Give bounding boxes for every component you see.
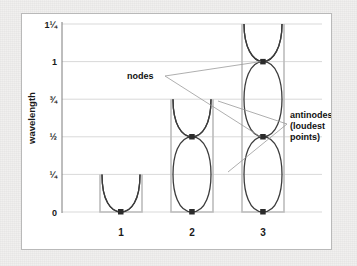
harmonic-2-node-0	[189, 209, 195, 215]
antinodes-leader-to-antinode-0-75	[218, 101, 287, 124]
harmonic-1-group	[100, 174, 142, 214]
x-tick-label-3: 3	[260, 227, 266, 238]
antinodes-annotation-label-line3: points)	[290, 132, 320, 142]
harmonic-3-curve-top-b	[244, 24, 282, 62]
harmonic-3-node-1	[260, 59, 266, 65]
harmonic-2-node-0-5	[189, 134, 195, 140]
harmonic-3-node-0-5	[260, 134, 266, 140]
y-tick-label-1: 1	[52, 57, 57, 67]
harmonic-1-tube-box	[100, 174, 142, 212]
y-tick-label-0-5: ½	[49, 132, 57, 142]
harmonic-1-curve-right	[102, 174, 140, 212]
y-tick-label-1-25: 1¼	[44, 20, 58, 30]
x-tick-label-1: 1	[118, 227, 124, 238]
y-axis-title: wavelength	[26, 92, 37, 145]
y-tick-label-0-25: ¼	[49, 170, 58, 180]
harmonic-2-group	[171, 99, 213, 214]
harmonic-3-tube-box	[242, 24, 284, 212]
standing-wave-harmonics-chart: 1¼ 1 ¾ ½ ¼ 0 wavelength	[22, 14, 331, 249]
harmonic-3-node-0	[260, 209, 266, 215]
harmonic-2-tube-box	[171, 99, 213, 212]
harmonic-1-curve-left	[102, 174, 140, 212]
antinodes-annotation-label-line2: (loudest	[290, 121, 325, 131]
harmonic-2-curve-upper-a	[173, 99, 211, 137]
y-tick-label-0: 0	[52, 208, 57, 218]
harmonic-1-node-0	[118, 209, 124, 215]
harmonic-3-curve-top-a	[244, 24, 282, 62]
antinodes-annotation-label-line1: antinodes	[290, 110, 331, 120]
gridlines	[62, 24, 322, 212]
harmonic-2-curve-upper-b	[173, 99, 211, 137]
nodes-leader-to-node-1	[165, 62, 261, 76]
nodes-annotation-label: nodes	[127, 71, 154, 81]
antinodes-leader-to-antinode-0-25	[228, 124, 287, 172]
y-tick-label-0-75: ¾	[49, 95, 58, 105]
diagram-panel: 1¼ 1 ¾ ½ ¼ 0 wavelength	[21, 13, 332, 250]
x-tick-label-2: 2	[189, 227, 195, 238]
harmonic-3-group	[242, 24, 284, 215]
